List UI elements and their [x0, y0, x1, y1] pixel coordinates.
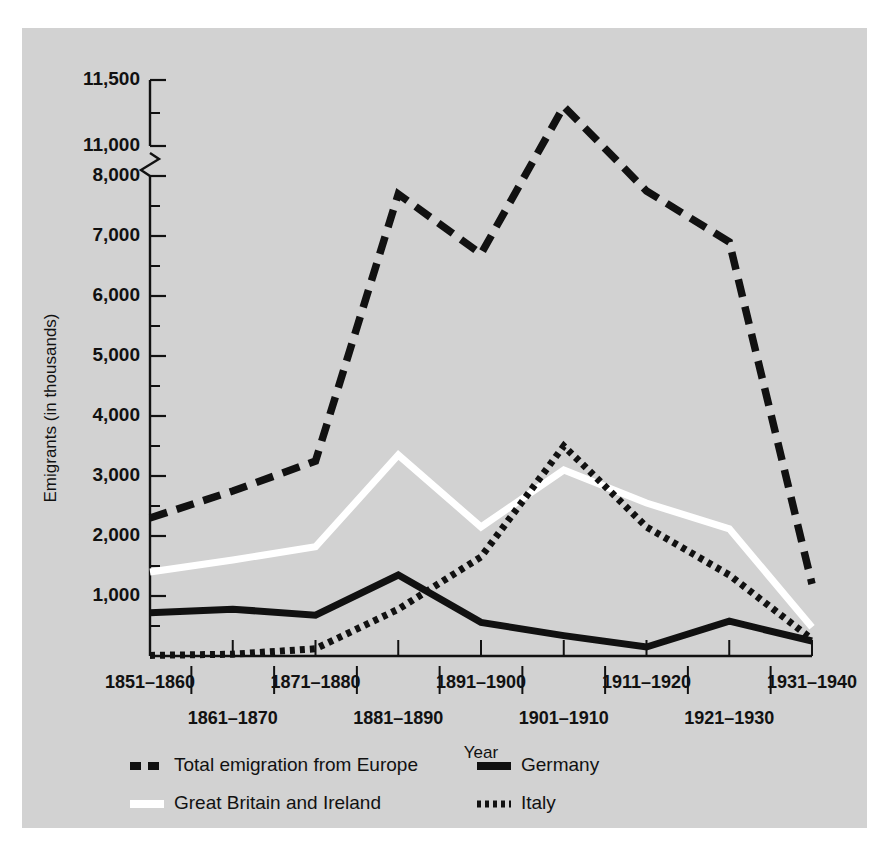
- y-tick-label: 4,000: [92, 404, 140, 425]
- chart-panel: 1,0002,0003,0004,0005,0006,0007,0008,000…: [22, 28, 867, 828]
- x-tick-labels: 1851–18601861–18701871–18801881–18901891…: [105, 666, 857, 728]
- series-line-total-emigration-from-europe: [150, 106, 812, 584]
- y-tick-label: 5,000: [92, 344, 140, 365]
- y-tick-label: 1,000: [92, 584, 140, 605]
- y-tick-label: 8,000: [92, 164, 140, 185]
- series-line-germany: [150, 575, 812, 647]
- x-tick-label: 1881–1890: [353, 708, 443, 728]
- legend-label: Germany: [521, 754, 600, 775]
- series-lines: [150, 106, 812, 655]
- series-line-great-britain-and-ireland: [150, 455, 812, 627]
- y-tick-label: 11,000: [83, 134, 140, 155]
- figure-container: 1,0002,0003,0004,0005,0006,0007,0008,000…: [0, 0, 888, 846]
- x-tick-label: 1871–1880: [270, 672, 360, 692]
- y-tick-label: 7,000: [92, 224, 140, 245]
- x-axis-title: Year: [464, 743, 499, 762]
- x-tick-label: 1901–1910: [519, 708, 609, 728]
- emigration-line-chart: 1,0002,0003,0004,0005,0006,0007,0008,000…: [22, 28, 867, 828]
- y-tick-label: 2,000: [92, 524, 140, 545]
- chart-legend: Total emigration from EuropeGermanyGreat…: [130, 754, 600, 813]
- axis-break-marker: [141, 153, 159, 176]
- x-tick-label: 1931–1940: [767, 672, 857, 692]
- x-tick-label: 1891–1900: [436, 672, 526, 692]
- x-tick-label: 1851–1860: [105, 672, 195, 692]
- legend-label: Total emigration from Europe: [174, 754, 418, 775]
- x-tick-label: 1911–1920: [602, 672, 691, 692]
- x-tick-label: 1861–1870: [188, 708, 278, 728]
- legend-label: Great Britain and Ireland: [174, 792, 381, 813]
- y-tick-label: 11,500: [83, 68, 140, 89]
- x-axis: [150, 640, 812, 656]
- legend-label: Italy: [521, 792, 556, 813]
- y-axis-title: Emigrants (in thousands): [41, 314, 60, 503]
- y-axis: 1,0002,0003,0004,0005,0006,0007,0008,000…: [83, 68, 166, 656]
- y-tick-label: 3,000: [92, 464, 140, 485]
- y-tick-label: 6,000: [92, 284, 140, 305]
- x-tick-label: 1921–1930: [684, 708, 774, 728]
